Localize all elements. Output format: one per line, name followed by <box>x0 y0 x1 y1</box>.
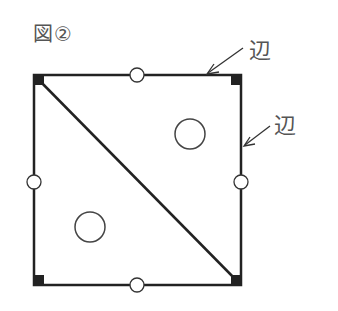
corner-mark-top-left <box>34 75 44 85</box>
tick-circle-top <box>130 68 144 82</box>
tick-circle-bottom <box>130 278 144 292</box>
corner-mark-bottom-left <box>34 275 44 285</box>
corner-mark-bottom-right <box>231 275 241 285</box>
tick-circle-left <box>27 175 41 189</box>
corner-mark-top-right <box>231 75 241 85</box>
circle-upper-right <box>175 119 205 149</box>
arrow-top-edge <box>208 48 243 73</box>
diagonal-line <box>34 75 241 285</box>
circle-lower-left <box>75 212 105 242</box>
square-diagram <box>0 0 338 311</box>
arrow-right-edge <box>245 126 270 145</box>
tick-circle-right <box>234 175 248 189</box>
